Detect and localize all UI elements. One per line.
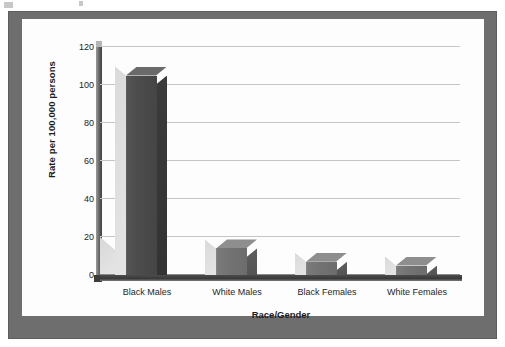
bar-front-face	[396, 266, 427, 276]
bar-side-face	[156, 76, 167, 276]
y-axis-tick-labels: 020406080100120	[58, 19, 94, 279]
bar-black-females	[306, 253, 336, 275]
x-tick-white-males: White Males	[212, 287, 262, 297]
y-tick-20: 20	[84, 232, 94, 242]
bar-front-face	[216, 248, 247, 275]
bar-top-face	[216, 239, 257, 248]
x-axis-title: Race/Gender	[100, 309, 462, 320]
bar-black-males	[126, 67, 156, 276]
y-tick-100: 100	[79, 80, 94, 90]
bar-top-face	[306, 253, 347, 262]
y-tick-40: 40	[84, 194, 94, 204]
y-tick-60: 60	[84, 156, 94, 166]
y-tick-120: 120	[79, 42, 94, 52]
bar-front-face	[306, 262, 337, 275]
y-axis-title: Rate per 100,000 persons	[46, 35, 57, 205]
bar-side-face	[336, 262, 347, 275]
bar-white-females	[396, 257, 426, 276]
x-tick-white-females: White Females	[387, 287, 447, 297]
bar-front-face	[126, 76, 157, 276]
plot-area	[100, 47, 460, 275]
bar-side-face	[426, 266, 437, 276]
bar-white-males	[216, 239, 246, 275]
x-axis-3d-floor	[100, 275, 462, 281]
scan-artifact-strip	[0, 0, 505, 11]
x-tick-black-females: Black Females	[297, 287, 356, 297]
gridline	[100, 46, 460, 47]
bar-chart: Rate per 100,000 persons 020406080100120…	[22, 19, 484, 316]
bar-side-face	[246, 248, 257, 275]
bar-top-face	[126, 67, 167, 76]
chart-page: Rate per 100,000 persons 020406080100120…	[22, 19, 484, 316]
bar-top-face	[396, 257, 437, 266]
x-axis-tick-labels: Black MalesWhite MalesBlack FemalesWhite…	[100, 287, 462, 303]
scan-mark	[4, 2, 13, 8]
y-tick-80: 80	[84, 118, 94, 128]
scan-mark	[79, 1, 83, 6]
x-tick-black-males: Black Males	[123, 287, 172, 297]
